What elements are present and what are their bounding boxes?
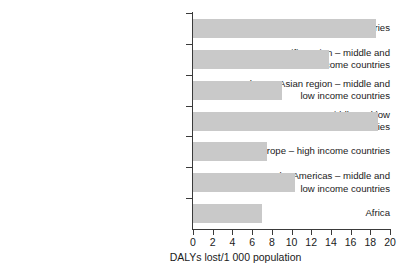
bar <box>193 19 376 38</box>
chart-row: South East Asian region – middle and low… <box>193 75 390 106</box>
x-axis-tick <box>292 230 293 235</box>
y-axis-tick <box>186 167 193 168</box>
x-axis-tick <box>370 230 371 235</box>
y-axis-tick <box>186 44 193 45</box>
x-axis-title: DALYs lost/1 000 population <box>0 251 407 263</box>
bar-chart: High income countries Western Pacific re… <box>0 0 407 278</box>
x-axis-tick-label: 20 <box>378 236 402 248</box>
x-axis-tick <box>193 230 194 235</box>
bar <box>193 142 267 161</box>
x-axis-tick <box>351 230 352 235</box>
plot-area: High income countries Western Pacific re… <box>193 13 390 229</box>
bar <box>193 50 329 69</box>
bar <box>193 204 262 223</box>
y-axis-tick <box>186 106 193 107</box>
chart-row: Africa <box>193 198 390 229</box>
x-axis-tick <box>272 230 273 235</box>
y-axis-tick <box>186 136 193 137</box>
bar <box>193 81 282 100</box>
x-axis-tick <box>390 230 391 235</box>
chart-row: Europe – high income countries <box>193 136 390 167</box>
chart-row: Western Pacific region – middle and low … <box>193 44 390 75</box>
chart-row: High income countries <box>193 13 390 44</box>
x-axis-ticks: 0 2 4 6 8 10 12 14 16 18 20 <box>193 230 391 252</box>
chart-row: The Americas – middle and low income cou… <box>193 167 390 198</box>
bar <box>193 173 295 192</box>
x-axis-tick <box>213 230 214 235</box>
x-axis-tick <box>232 230 233 235</box>
bar <box>193 112 378 131</box>
y-axis-tick <box>186 198 193 199</box>
x-axis-tick <box>311 230 312 235</box>
x-axis-tick <box>252 230 253 235</box>
y-axis-tick <box>186 75 193 76</box>
chart-row: Europe – middle and low income countries <box>193 106 390 137</box>
x-axis-tick <box>331 230 332 235</box>
y-axis-tick <box>186 13 193 14</box>
